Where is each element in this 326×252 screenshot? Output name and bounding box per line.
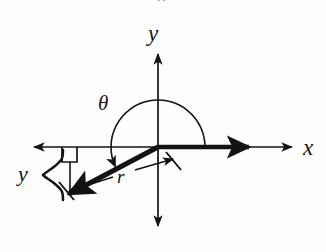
radius-dim-arrow-right bbox=[135, 159, 173, 170]
angle-diagram-figure: p bbox=[0, 0, 326, 252]
curly-brace-path bbox=[43, 150, 63, 200]
theta-angle-label: θ bbox=[98, 93, 108, 114]
right-angle-square-path bbox=[62, 147, 77, 162]
vertical-leg-brace bbox=[43, 150, 63, 200]
radius-dim-arrow-left bbox=[69, 177, 113, 191]
y-axis-label: y bbox=[148, 22, 158, 45]
right-angle-marker bbox=[62, 147, 77, 162]
radius-label: r bbox=[117, 167, 124, 186]
vertical-leg-label: y bbox=[18, 163, 28, 185]
diagram-canvas bbox=[0, 0, 326, 252]
axis-group bbox=[34, 54, 292, 226]
x-axis-label: x bbox=[303, 136, 313, 159]
